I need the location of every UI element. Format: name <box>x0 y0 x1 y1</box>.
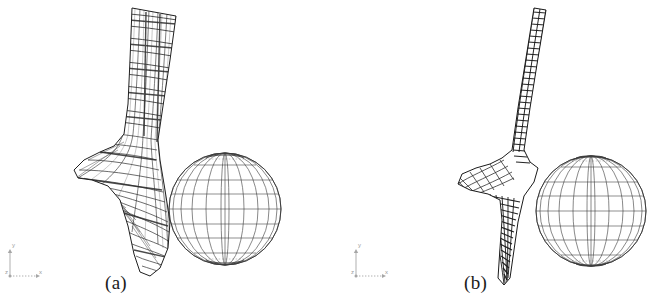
axis-label-y: y <box>358 242 361 248</box>
panel-b: y x z (b) <box>324 0 648 302</box>
axis-z-origin <box>9 275 12 278</box>
figure-canvas: y x z (a) <box>0 0 648 302</box>
axis-y-arrow <box>354 249 358 253</box>
axis-label-y: y <box>12 242 15 248</box>
panel-a: y x z (a) <box>0 0 324 302</box>
panel-label-a: (a) <box>105 272 127 294</box>
axis-label-z: z <box>351 269 354 275</box>
axis-triad-a: y x z <box>6 244 46 282</box>
axis-label-x: x <box>385 269 388 275</box>
sphere-wireframe-a <box>0 0 324 302</box>
axis-triad-b: y x z <box>352 244 392 282</box>
panel-label-b: (b) <box>464 272 487 294</box>
axis-z-origin <box>355 275 358 278</box>
axis-y-arrow <box>8 249 12 253</box>
axis-label-x: x <box>39 269 42 275</box>
axis-label-z: z <box>5 269 8 275</box>
